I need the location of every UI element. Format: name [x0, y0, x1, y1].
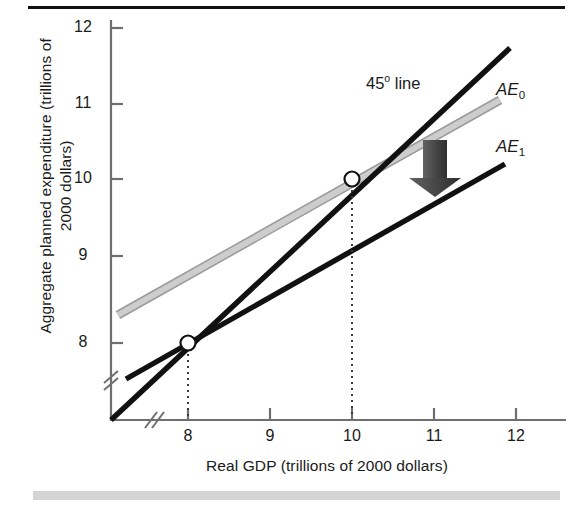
label-ae1: AE1 — [496, 137, 525, 158]
label-ae0-text: AE — [496, 80, 519, 99]
x-tick-label-11: 11 — [419, 427, 449, 445]
label-ae0-sub: 0 — [519, 89, 525, 101]
x-axis-title: Real GDP (trillions of 2000 dollars) — [206, 457, 448, 475]
label-ae1-text: AE — [496, 137, 519, 156]
series-ae0-line — [118, 100, 500, 315]
x-tick-label-10: 10 — [337, 427, 367, 445]
figure-container: 12 11 10 9 8 8 9 10 11 12 Aggregate plan… — [0, 0, 574, 505]
series-45-degree-line — [111, 48, 510, 420]
equilibrium-marker-high — [345, 172, 360, 187]
label-ae0: AE0 — [496, 80, 525, 101]
label-45-value: 45 — [366, 74, 384, 92]
x-tick-label-9: 9 — [255, 427, 285, 445]
y-axis-title: Aggregate planned expenditure (trillions… — [36, 21, 76, 351]
bottom-caption-bar — [33, 491, 560, 500]
equilibrium-marker-low — [181, 336, 196, 351]
label-45-degree-line: 45o line — [366, 72, 420, 93]
x-tick-label-8: 8 — [173, 427, 203, 445]
label-45-tail: line — [390, 74, 420, 92]
label-ae1-sub: 1 — [519, 146, 525, 158]
x-tick-label-12: 12 — [501, 427, 531, 445]
y-axis-ticks — [111, 28, 123, 343]
